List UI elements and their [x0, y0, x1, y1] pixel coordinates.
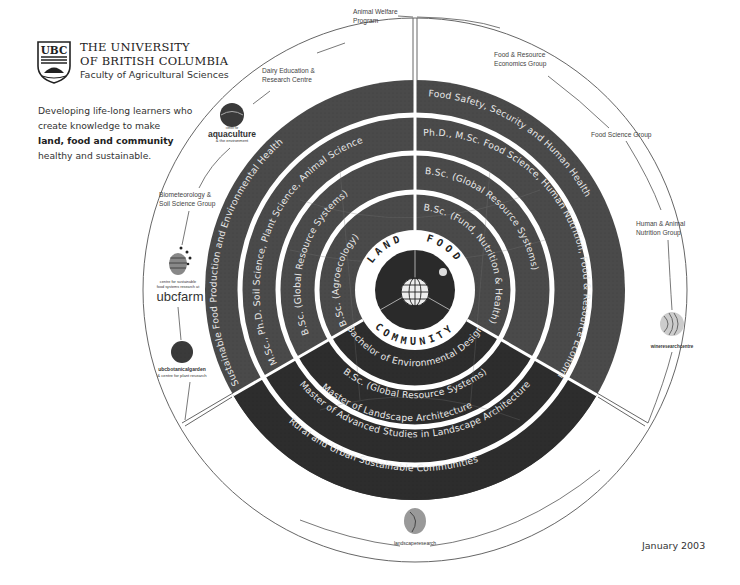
faculty-programs-diagram: LANDFOOD COMMUNITY Food Safety, Security… [0, 0, 740, 585]
svg-text:Nutrition Group: Nutrition Group [636, 229, 681, 237]
globe-icon [401, 278, 429, 306]
svg-text:Soil Science Group: Soil Science Group [159, 200, 216, 208]
apple-icon [439, 268, 447, 276]
svg-text:Program: Program [353, 17, 379, 25]
svg-text:Food & Resource: Food & Resource [494, 51, 546, 58]
svg-text:ubcbotanicalgarden: ubcbotanicalgarden [158, 366, 206, 372]
svg-text:Biometeorology &: Biometeorology & [159, 191, 212, 199]
svg-text:landscaperesearch: landscaperesearch [394, 540, 436, 546]
svg-text:Dairy Education &: Dairy Education & [262, 67, 315, 75]
outer-label-animal-welfare: Animal Welfare Program [353, 8, 398, 25]
svg-text:wineresearchcentre: wineresearchcentre [650, 344, 694, 349]
svg-text:Human & Animal: Human & Animal [636, 220, 686, 227]
outer-label-dairy: Dairy Education & Research Centre [262, 67, 315, 83]
svg-text:& centre for plant research: & centre for plant research [157, 373, 207, 378]
outer-label-food-science: Food Science Group [591, 131, 652, 139]
svg-text:Food Science Group: Food Science Group [591, 131, 652, 139]
outer-label-food-resource: Food & Resource Economics Group [494, 51, 547, 68]
landscape-research-logo: landscaperesearch [394, 508, 436, 546]
svg-text:Research Centre: Research Centre [262, 76, 312, 83]
outer-label-human-animal: Human & Animal Nutrition Group [636, 220, 686, 237]
wine-research-centre-logo: wineresearchcentre [650, 312, 694, 349]
botanical-garden-logo: ubcbotanicalgarden & centre for plant re… [157, 341, 207, 378]
svg-text:centre for sustainable: centre for sustainable [160, 280, 196, 284]
svg-text:ubcfarm: ubcfarm [157, 289, 204, 304]
outer-label-biomet: Biometeorology & Soil Science Group [159, 191, 216, 208]
svg-text:& the environment: & the environment [216, 138, 249, 143]
svg-text:Economics Group: Economics Group [494, 60, 547, 68]
svg-text:Animal Welfare: Animal Welfare [353, 8, 398, 15]
aquaculture-logo: centre for aquaculture & the environment [208, 103, 256, 143]
ubcfarm-logo: centre for sustainable food systems rese… [157, 247, 204, 305]
